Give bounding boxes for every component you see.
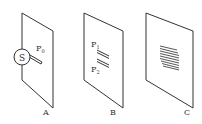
panel-a: S P0 A	[14, 13, 53, 117]
double-slit-diagram: S P0 A P1 P2 B	[0, 0, 202, 124]
slit-p2	[97, 59, 109, 68]
panel-b: P1 P2 B	[84, 13, 123, 117]
panel-c-label: C	[184, 108, 190, 117]
slit-p0	[30, 55, 42, 64]
panel-c: C	[146, 13, 193, 117]
slit-p2-label: P2	[91, 65, 100, 75]
interference-fringes	[160, 46, 179, 70]
panel-b-screen	[84, 13, 123, 108]
source-label: S	[19, 53, 25, 63]
panel-b-label: B	[110, 108, 116, 117]
slit-p1	[97, 50, 109, 59]
slit-p0-label: P0	[36, 44, 45, 54]
panel-a-label: A	[42, 108, 49, 117]
slit-p1-label: P1	[91, 40, 100, 50]
